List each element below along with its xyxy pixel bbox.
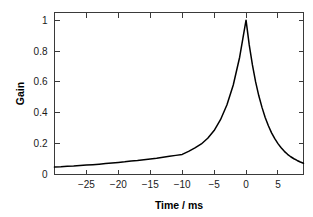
x-tick-label: −25 xyxy=(78,179,95,190)
x-tick-label: −10 xyxy=(174,179,191,190)
x-tick-label: −20 xyxy=(110,179,127,190)
y-tick-label: 0.4 xyxy=(34,107,48,118)
x-tick-label: −5 xyxy=(208,179,220,190)
y-tick-label: 0.8 xyxy=(34,46,48,57)
y-tick-label: 0.2 xyxy=(34,138,48,149)
x-tick-label: 5 xyxy=(275,179,281,190)
chart-figure: −25−20−15−10−505 00.20.40.60.81 Time / m… xyxy=(0,0,313,217)
x-tick-label: 0 xyxy=(243,179,249,190)
y-tick-label: 0.6 xyxy=(34,76,48,87)
gain-vs-time-plot: −25−20−15−10−505 00.20.40.60.81 Time / m… xyxy=(0,0,313,217)
y-tick-label: 0 xyxy=(42,169,48,180)
y-tick-label: 1 xyxy=(42,15,48,26)
x-axis-title: Time / ms xyxy=(155,199,203,211)
x-tick-label: −15 xyxy=(142,179,159,190)
y-axis-title: Gain xyxy=(14,82,26,105)
